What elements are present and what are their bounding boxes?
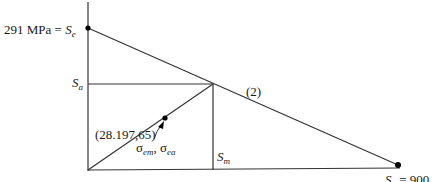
su-value: = 900 (396, 172, 429, 182)
su-label: Su = 900 (385, 173, 429, 182)
sm-sub: m (224, 156, 231, 166)
se-sub: e (72, 29, 76, 39)
se-label: 291 MPa = Se (4, 23, 76, 39)
line-tag: (2) (246, 85, 261, 98)
se-value: 291 MPa = (4, 22, 65, 37)
point-coords: (28.197,65) (95, 128, 156, 141)
sa-label: Sa (72, 76, 83, 92)
goodman-diagram: 291 MPa = Se Sa (2) (28.197,65) σem, σea… (0, 0, 433, 182)
sigma-ea-sub: ea (167, 147, 176, 157)
sigma-label: σem, σea (136, 141, 176, 157)
stress-point (162, 115, 167, 120)
sigma-em-sub: em (143, 147, 154, 157)
su-point (395, 162, 401, 168)
se-point (85, 25, 90, 30)
sigma-ea: σ (160, 140, 167, 155)
sa-sub: a (79, 82, 84, 92)
sigma-em: σ (136, 140, 143, 155)
sm-label: Sm (217, 150, 230, 166)
goodman-line (88, 28, 398, 165)
horizontal-axis (88, 168, 400, 170)
